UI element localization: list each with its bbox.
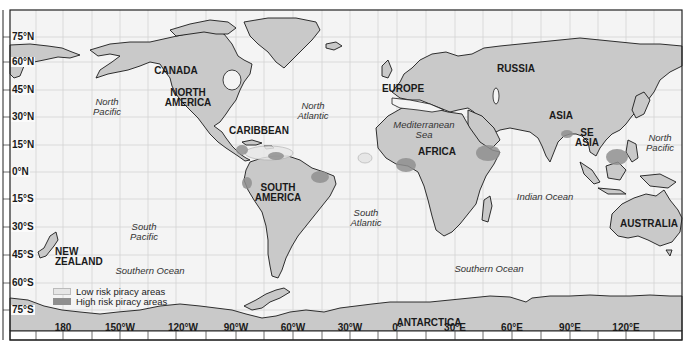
high-risk-ecuador — [242, 177, 252, 189]
lon-label-60e: 60°E — [501, 323, 523, 333]
label-south-america: SOUTHAMERICA — [255, 183, 302, 203]
lon-label-30w: 30°W — [338, 323, 363, 333]
legend-item-high-risk: High risk piracy areas — [53, 296, 167, 306]
label-north-america: NORTHAMERICA — [165, 88, 212, 108]
lat-label-75s: 75°S — [11, 305, 35, 315]
lat-label-0n: 0°N — [11, 167, 30, 177]
label-north-atlantic: NorthAtlantic — [297, 101, 328, 120]
high-risk-gulf-of-guinea — [396, 158, 416, 172]
label-south-atlantic: SouthAtlantic — [350, 208, 381, 227]
label-europe: EUROPE — [382, 84, 424, 94]
lat-label-45n: 45°N — [11, 85, 35, 95]
label-america-s: AMERICA — [255, 192, 302, 203]
lon-label-120e: 120°E — [612, 323, 639, 333]
label-russia: RUSSIA — [497, 64, 535, 74]
lat-label-30s: 30°S — [11, 222, 35, 232]
label-caribbean: CARIBBEAN — [229, 126, 289, 136]
label-asia-se: ASIA — [575, 137, 599, 148]
lat-label-15n: 15°N — [11, 140, 35, 150]
label-asia: ASIA — [549, 111, 573, 121]
legend-item-low-risk: Low risk piracy areas — [53, 286, 167, 296]
legend: Low risk piracy areas High risk piracy a… — [53, 286, 167, 306]
legend-label-high-risk: High risk piracy areas — [76, 296, 167, 307]
lat-label-30n: 30°N — [11, 112, 35, 122]
label-north-pacific-west: NorthPacific — [93, 97, 121, 116]
label-se-asia: SEASIA — [575, 128, 599, 148]
label-southern-ocean-east: Southern Ocean — [454, 264, 523, 274]
lat-label-45s: 45°S — [11, 250, 35, 260]
low-risk-mid-atlantic — [358, 153, 372, 163]
hudson-bay — [223, 70, 241, 90]
label-new-zealand: NEWZEALAND — [55, 247, 103, 267]
lon-label-150w: 150°W — [105, 323, 135, 333]
lon-label-90w: 90°W — [224, 323, 249, 333]
label-america: AMERICA — [165, 97, 212, 108]
high-risk-brazil — [311, 171, 329, 183]
label-canada: CANADA — [154, 66, 197, 76]
label-southern-ocean-west: Southern Ocean — [115, 266, 184, 276]
lat-label-60n: 60°N — [11, 57, 35, 67]
label-antarctica: ANTARCTICA — [397, 318, 462, 328]
label-australia: AUSTRALIA — [620, 219, 678, 229]
high-risk-central-america — [236, 145, 248, 155]
label-south-pacific: SouthPacific — [130, 222, 158, 241]
high-risk-swatch — [53, 298, 71, 305]
lon-label-180: 180 — [55, 323, 72, 333]
label-indian-ocean: Indian Ocean — [517, 192, 574, 202]
high-risk-bay-of-bengal — [561, 130, 573, 138]
lat-label-15s: 15°S — [11, 194, 35, 204]
lat-label-60s: 60°S — [11, 278, 35, 288]
lon-label-60w: 60°W — [281, 323, 306, 333]
lon-label-120w: 120°W — [168, 323, 198, 333]
high-risk-gulf-of-aden — [476, 145, 500, 161]
high-risk-south-china-sea — [606, 149, 628, 165]
label-zealand: ZEALAND — [55, 256, 103, 267]
left-ticks — [3, 37, 10, 310]
label-africa: AFRICA — [418, 147, 456, 157]
low-risk-swatch — [53, 288, 71, 295]
lon-label-90e: 90°E — [559, 323, 581, 333]
caspian-sea — [493, 88, 499, 104]
high-risk-venezuela — [268, 152, 284, 160]
label-north-pacific-east: NorthPacific — [646, 133, 674, 152]
label-mediterranean-sea: MediterraneanSea — [393, 120, 454, 139]
lat-label-75n: 75°N — [11, 32, 35, 42]
